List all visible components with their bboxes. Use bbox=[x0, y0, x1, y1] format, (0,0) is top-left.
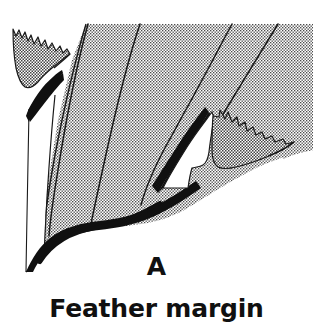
feather-margin-illustration bbox=[0, 0, 313, 290]
figure-root: A Feather margin bbox=[0, 0, 313, 332]
panel-letter-wrap: A bbox=[0, 254, 313, 279]
figure-caption-wrap: Feather margin bbox=[0, 295, 313, 323]
panel-letter: A bbox=[147, 252, 166, 281]
figure-caption: Feather margin bbox=[49, 294, 263, 323]
